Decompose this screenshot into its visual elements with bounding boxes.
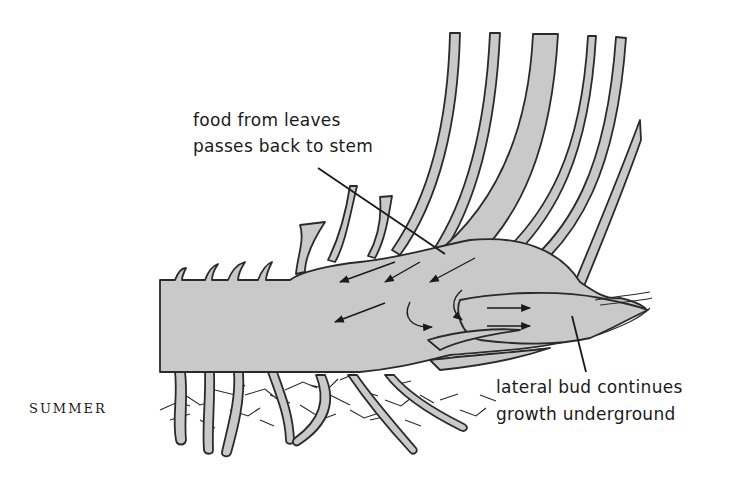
diagram-canvas: food from leaves passes back to stem lat…	[0, 0, 748, 478]
food-flow-label: food from leaves passes back to stem	[193, 109, 373, 157]
lateral-bud-label-line2: growth underground	[496, 403, 683, 425]
season-label: SUMMER	[29, 401, 107, 416]
food-flow-label-line2: passes back to stem	[193, 135, 373, 157]
food-flow-label-line1: food from leaves	[193, 109, 373, 131]
lateral-bud-label-line1: lateral bud continues	[496, 376, 683, 398]
lateral-bud-label: lateral bud continues growth underground	[496, 376, 683, 425]
rhizome-stem	[160, 239, 652, 372]
roots	[160, 372, 496, 456]
